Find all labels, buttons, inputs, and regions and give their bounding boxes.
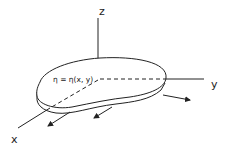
x-axis [18,108,50,128]
surface-equation: η = η(x, y) [53,75,93,84]
flux-arrow-front [94,107,112,118]
z-axis-label: z [99,5,105,18]
flux-arrow-left [48,112,70,126]
x-axis-label: x [11,133,18,146]
y-axis-label: y [211,78,218,91]
flux-arrow-right [163,95,190,100]
fluid-surface-diagram: z y x η = η(x, y) [0,0,226,152]
